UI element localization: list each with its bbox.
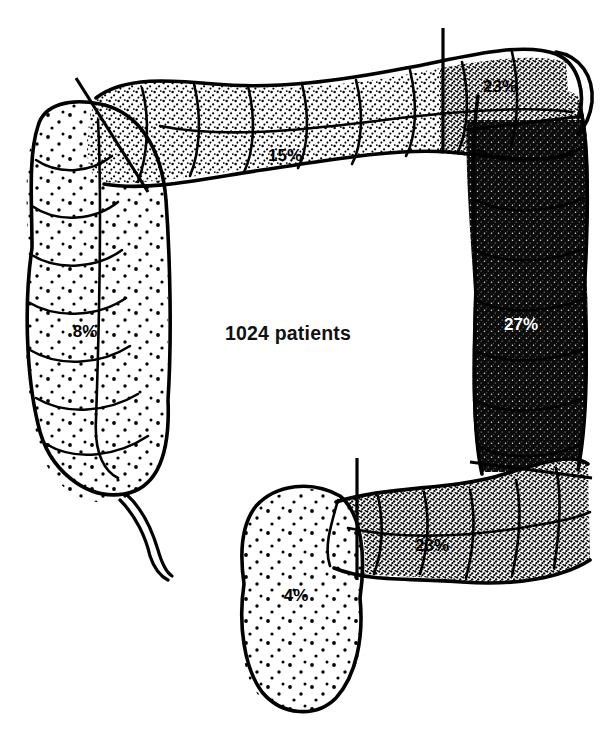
segment-label-transverse: 15% bbox=[268, 146, 302, 165]
colon-distribution-figure: 8% 15% 23% 27% 23% 4% 1024 patients bbox=[0, 0, 610, 734]
colon-diagram: 8% 15% 23% 27% 23% 4% 1024 patients bbox=[0, 0, 610, 734]
segment-label-splenic-flexure: 23% bbox=[483, 77, 517, 96]
segment-label-sigmoid: 23% bbox=[415, 536, 449, 555]
patient-count-caption: 1024 patients bbox=[225, 322, 351, 344]
segment-label-descending: 27% bbox=[504, 315, 538, 334]
segment-label-rectum: 4% bbox=[284, 586, 309, 605]
segment-label-ascending: 8% bbox=[73, 322, 98, 341]
